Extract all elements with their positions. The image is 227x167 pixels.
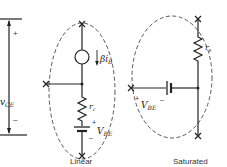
battery-plus-sign: + <box>135 95 139 102</box>
transistor-model-diagram: + vCE – βiB rc + VBE – Linear <box>0 0 227 167</box>
battery-vbe-label: VBE <box>97 126 113 137</box>
battery-minus-sign: – <box>89 134 93 141</box>
arrow-down-icon <box>7 128 11 134</box>
current-source-label: βiB <box>99 54 113 65</box>
saturated-model: rs + VBE – Saturated <box>128 16 212 166</box>
resistor-rc-label: rc <box>89 102 96 112</box>
vce-minus-sign: – <box>13 115 18 124</box>
linear-model: βiB rc + VBE – Linear <box>43 21 115 166</box>
battery-minus-sign: – <box>160 96 164 103</box>
current-source-icon <box>75 50 89 64</box>
linear-caption: Linear <box>70 157 93 166</box>
resistor-rs-label: rs <box>205 43 212 53</box>
resistor-rs-icon <box>194 19 202 136</box>
vce-plus-sign: + <box>13 29 18 38</box>
resistor-rc-icon <box>78 84 86 126</box>
vce-label: vCE <box>0 97 15 108</box>
saturated-boundary-ellipse <box>132 16 212 138</box>
battery-plus-sign: + <box>92 119 96 126</box>
vce-scale: + vCE – <box>0 19 27 135</box>
arrow-down-icon <box>95 61 99 66</box>
saturated-caption: Saturated <box>173 157 208 166</box>
battery-vbe-label: VBE <box>141 100 157 111</box>
arrow-up-icon <box>7 20 11 26</box>
